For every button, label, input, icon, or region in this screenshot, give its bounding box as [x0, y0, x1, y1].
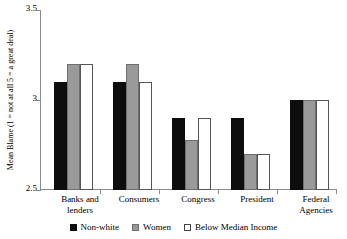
y-axis-tick-labels: 3.5 3 2.5: [0, 0, 40, 239]
y-tick-label-2-5: 2.5: [0, 184, 40, 193]
legend-item-below-median-income: Below Median Income: [184, 222, 277, 232]
bar-congress-women: [185, 140, 198, 190]
legend-swatch-below-median-income-icon: [184, 224, 191, 231]
bar-congress-below-median-income: [198, 118, 211, 190]
x-category-label-federal-agencies: Federal Agencies: [280, 194, 347, 216]
chart-legend: Non-white Women Below Median Income: [0, 222, 347, 232]
bar-banks-and-lenders-women: [67, 64, 80, 190]
bar-group-banks-and-lenders: [40, 10, 100, 190]
bar-group-federal-agencies: [276, 10, 336, 190]
bar-federal-agencies-non-white: [290, 100, 303, 190]
bar-president-below-median-income: [257, 154, 270, 190]
bar-consumers-non-white: [113, 82, 126, 190]
bar-congress-non-white: [172, 118, 185, 190]
bar-president-women: [244, 154, 257, 190]
bar-consumers-women: [126, 64, 139, 190]
legend-swatch-non-white-icon: [70, 224, 77, 231]
y-tick-mark-2-5: [36, 190, 40, 191]
bar-president-non-white: [231, 118, 244, 190]
bar-chart-figure: Mean Blame (1 = not at all 5 = a great d…: [0, 0, 347, 239]
y-tick-label-3: 3: [0, 94, 40, 103]
legend-label-non-white: Non-white: [81, 222, 120, 232]
legend-label-women: Women: [143, 222, 171, 232]
legend-item-non-white: Non-white: [70, 222, 120, 232]
legend-item-women: Women: [132, 222, 171, 232]
bar-group-president: [217, 10, 277, 190]
legend-swatch-women-icon: [132, 224, 139, 231]
legend-label-below-median-income: Below Median Income: [195, 222, 277, 232]
bar-consumers-below-median-income: [139, 82, 152, 190]
bar-banks-and-lenders-non-white: [54, 82, 67, 190]
bar-group-consumers: [99, 10, 159, 190]
bar-banks-and-lenders-below-median-income: [80, 64, 93, 190]
bar-group-congress: [158, 10, 218, 190]
bar-federal-agencies-below-median-income: [316, 100, 329, 190]
bar-federal-agencies-women: [303, 100, 316, 190]
y-tick-label-3-5: 3.5: [0, 4, 40, 13]
plot-area: [40, 10, 337, 190]
